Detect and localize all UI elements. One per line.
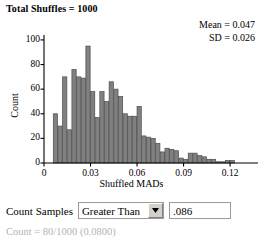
histogram-bar [146,137,150,163]
histogram-bar [156,143,160,163]
histogram-bar [198,156,202,163]
histogram-bar [81,78,85,163]
histogram-plot: Count 020406080100 00.030.060.090.12 Shu… [0,28,263,196]
count-samples-controls: Count Samples Greater Than .086 [6,202,231,219]
comparison-select-value: Greater Than [79,205,148,217]
histogram-bar [160,152,164,163]
histogram-bar [142,136,146,163]
x-tick-label: 0 [27,168,61,178]
histogram-bar [77,77,81,163]
histogram-bar [67,130,71,163]
x-tick-label: 0.12 [213,168,247,178]
x-tick-label: 0.09 [167,168,201,178]
histogram-bar [128,116,132,163]
histogram-bar [114,89,118,163]
histogram-bar [63,77,67,163]
histogram-bar [184,159,188,163]
histogram-bar [137,106,141,163]
histogram-bar [211,159,215,163]
histogram-bar [132,116,136,163]
x-tick-label: 0.06 [120,168,154,178]
histogram-bar [165,148,169,163]
count-samples-label: Count Samples [6,205,73,217]
histogram-bar [151,138,155,163]
threshold-input[interactable]: .086 [169,202,231,219]
histogram-bar [104,101,108,163]
histogram-bar [118,97,122,163]
x-tick-label: 0.03 [74,168,108,178]
histogram-bar [207,159,211,163]
count-result-text: Count = 80/1000 (0.0800) [6,226,116,237]
page-title: Total Shuffles = 1000 [6,3,98,14]
histogram-bar [123,114,127,163]
x-axis-label: Shuffled MADs [0,178,263,189]
histogram-bar [86,46,90,163]
histogram-bar [53,114,57,163]
histogram-bar [170,149,174,163]
histogram-bar [95,117,99,163]
shuffle-histogram-panel: Total Shuffles = 1000 Mean = 0.047 SD = … [0,0,263,248]
histogram-bar [100,92,104,163]
comparison-select[interactable]: Greater Than [78,202,164,219]
histogram-bar [72,69,76,163]
histogram-bar [58,126,62,163]
histogram-bar [193,153,197,163]
histogram-bar [91,92,95,163]
histogram-bar [179,158,183,163]
chevron-down-icon[interactable] [148,203,163,218]
threshold-input-value: .086 [173,205,192,217]
histogram-bar [174,151,178,163]
histogram-bar [109,82,113,163]
histogram-bar [188,153,192,163]
histogram-bar [202,157,206,163]
